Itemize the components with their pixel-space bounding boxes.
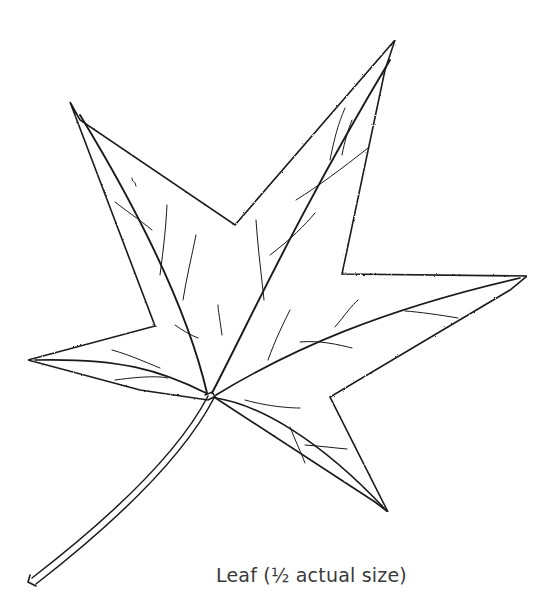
leaf-outline xyxy=(28,40,527,512)
figure-caption: Leaf (½ actual size) xyxy=(216,564,407,586)
leaf-drawing-icon xyxy=(0,0,553,610)
leaf-petiole xyxy=(28,392,216,586)
leaf-veins xyxy=(35,60,520,508)
leaf-illustration: Leaf (½ actual size) xyxy=(0,0,553,610)
